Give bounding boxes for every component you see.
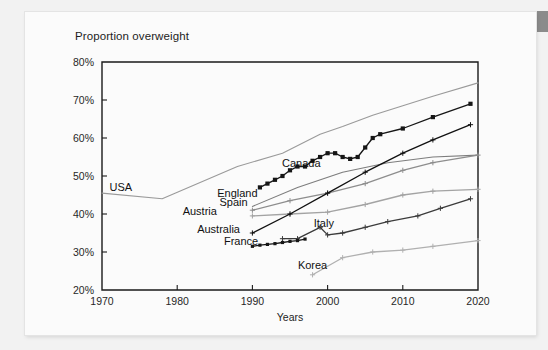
series-label-australia: Australia xyxy=(197,223,241,235)
chart-series xyxy=(102,83,481,278)
series-label-austria: Austria xyxy=(183,205,218,217)
x-tick-label: 2000 xyxy=(316,295,340,307)
series-label-usa: USA xyxy=(109,181,132,193)
x-tick-label: 1970 xyxy=(90,295,114,307)
screenshot-root: Proportion overweight 20%30%40%50%60%70%… xyxy=(0,0,548,350)
series-label-canada: Canada xyxy=(282,157,321,169)
x-tick-label: 1990 xyxy=(241,295,265,307)
y-tick-label: 50% xyxy=(73,170,94,182)
series-label-spain: Spain xyxy=(220,196,248,208)
series-label-italy: Italy xyxy=(314,217,335,229)
chart-page-sheet: Proportion overweight 20%30%40%50%60%70%… xyxy=(25,12,536,335)
x-tick-label: 2010 xyxy=(391,295,415,307)
line-chart-svg: 20%30%40%50%60%70%80%1970198019902000201… xyxy=(25,12,536,335)
y-tick-label: 60% xyxy=(73,132,94,144)
chart-canvas: 20%30%40%50%60%70%80%1970198019902000201… xyxy=(25,12,536,335)
series-usa xyxy=(102,83,478,199)
series-label-france: France xyxy=(224,235,258,247)
y-tick-label: 40% xyxy=(73,208,94,220)
x-tick-label: 2020 xyxy=(466,295,490,307)
y-tick-label: 30% xyxy=(73,246,94,258)
y-tick-label: 80% xyxy=(73,56,94,68)
x-tick-label: 1980 xyxy=(166,295,190,307)
series-england xyxy=(258,102,473,190)
series-korea xyxy=(310,238,481,277)
series-label-korea: Korea xyxy=(298,259,328,271)
y-tick-label: 70% xyxy=(73,94,94,106)
x-axis-title: Years xyxy=(277,311,303,323)
chart-axes: 20%30%40%50%60%70%80%1970198019902000201… xyxy=(73,56,490,323)
series-australia xyxy=(250,122,473,236)
series-france xyxy=(251,237,307,247)
y-tick-label: 20% xyxy=(73,284,94,296)
